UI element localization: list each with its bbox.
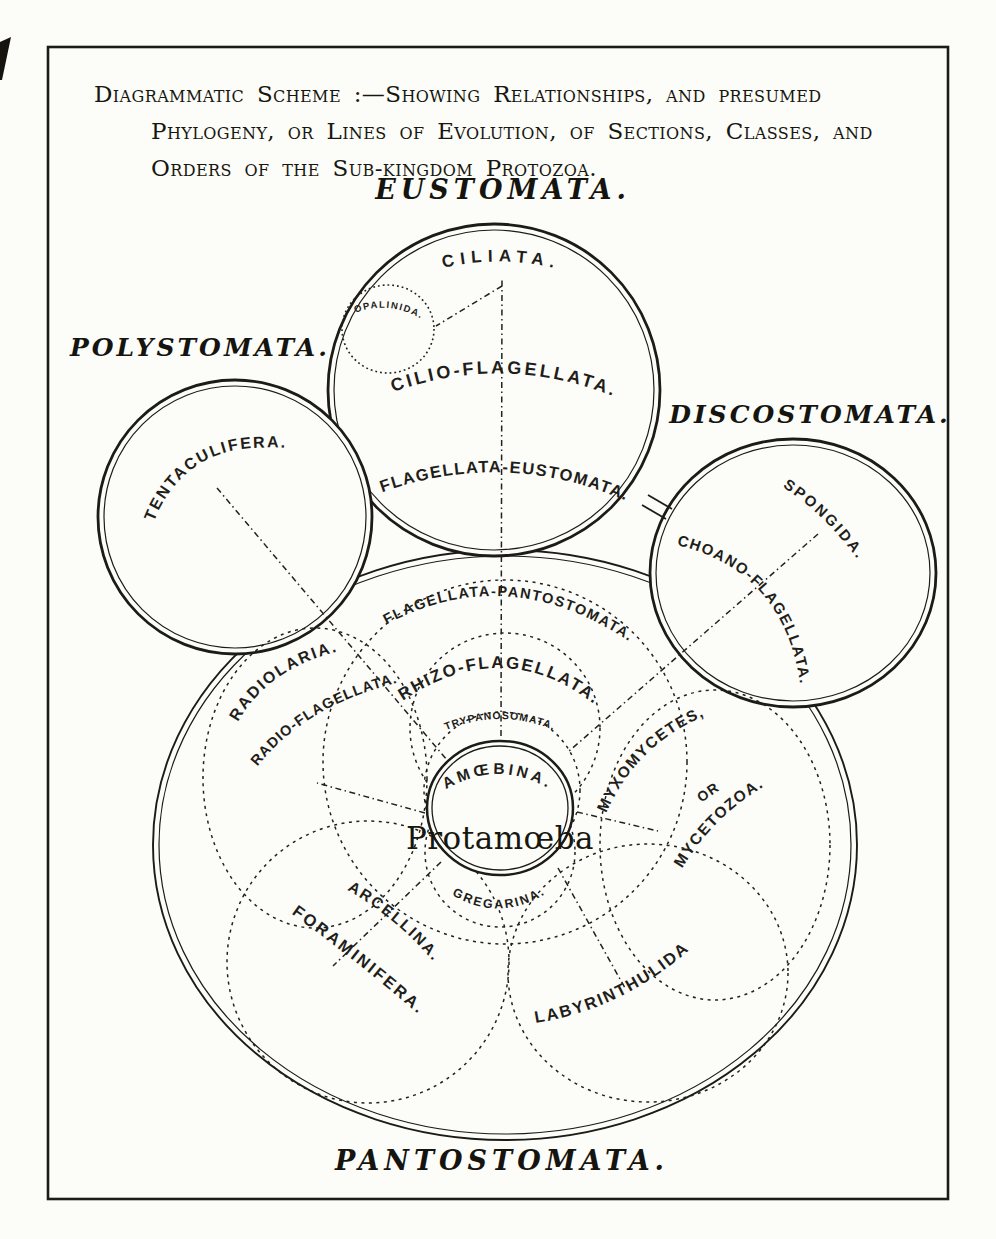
scan-artifact xyxy=(0,37,11,80)
caption-line-2: Phylogeny, or Lines of Evolution, of Sec… xyxy=(94,113,914,150)
section-label-pantostomata: PANTOSTOMATA. xyxy=(334,1145,669,1176)
circle-polystomata xyxy=(98,380,372,654)
scanned-page: EUSTOMATA. POLYSTOMATA. DISCOSTOMATA. PA… xyxy=(0,0,996,1239)
section-label-discostomata: DISCOSTOMATA. xyxy=(668,400,951,429)
caption: Diagrammatic Scheme :—Showing Relationsh… xyxy=(94,76,914,187)
caption-line-1: Diagrammatic Scheme :—Showing Relationsh… xyxy=(94,76,914,113)
label-protamoeba: Protamœba xyxy=(406,820,594,856)
caption-line-3: Orders of the Sub-kingdom Protozoa. xyxy=(94,150,914,187)
section-label-polystomata: POLYSTOMATA. xyxy=(69,333,330,362)
